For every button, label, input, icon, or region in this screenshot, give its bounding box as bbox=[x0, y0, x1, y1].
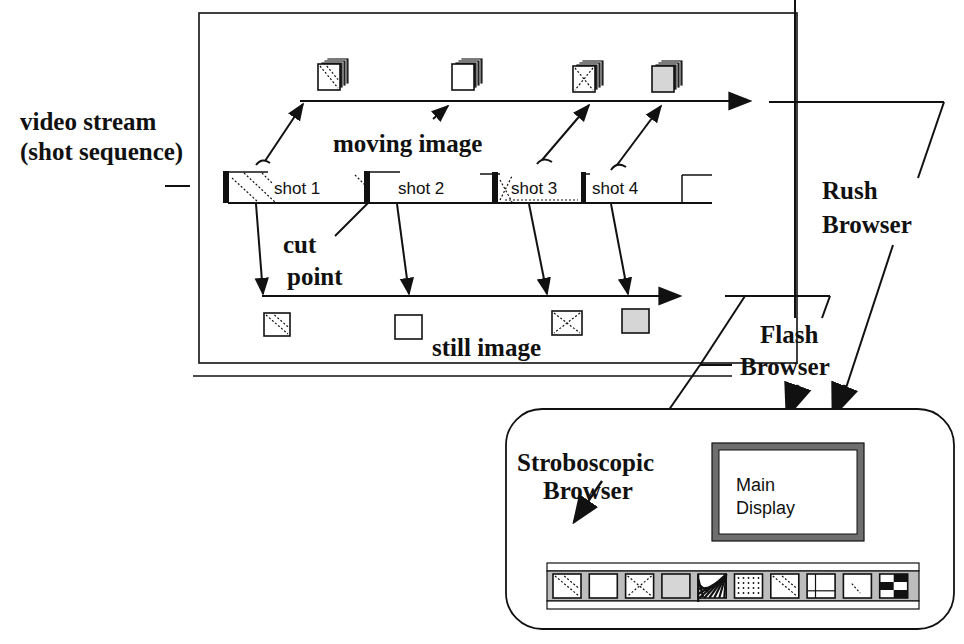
flash-browser-label-1: Flash bbox=[760, 321, 818, 348]
thumbnail-dashes[interactable] bbox=[843, 574, 871, 598]
shot-1-label: shot 1 bbox=[274, 179, 320, 198]
still-image-label: still image bbox=[432, 334, 541, 361]
shot-strip: shot 1 shot 2 shot 3 shot 4 bbox=[165, 171, 712, 203]
rush-browser-label-1: Rush bbox=[822, 177, 878, 204]
thumbnail-diagonal[interactable] bbox=[318, 64, 340, 90]
thumbnail-gray[interactable] bbox=[622, 309, 649, 333]
diagram-canvas: shot 1 shot 2 shot 3 shot 4 bbox=[0, 0, 964, 644]
cut-label: cut bbox=[283, 231, 317, 258]
main-display-label-2: Display bbox=[736, 498, 795, 518]
thumbnail-diagonal[interactable] bbox=[553, 574, 581, 598]
thumbnail-gray[interactable] bbox=[662, 574, 690, 598]
thumbnail-cross[interactable] bbox=[552, 311, 582, 335]
point-label: point bbox=[287, 263, 343, 290]
thumbnail-diagonal[interactable] bbox=[771, 574, 799, 598]
shot-3-label: shot 3 bbox=[511, 179, 557, 198]
cut-mark bbox=[223, 171, 229, 203]
stroboscopic-browser-label-2: Browser bbox=[543, 477, 633, 504]
moving-image-label: moving image bbox=[333, 130, 482, 157]
thumbnail-stripes[interactable] bbox=[698, 574, 726, 602]
shot-2-label: shot 2 bbox=[398, 179, 444, 198]
cut-mark bbox=[492, 172, 498, 202]
thumbnail-panes[interactable] bbox=[807, 574, 835, 598]
cut-mark bbox=[364, 171, 370, 203]
thumbnail-blank[interactable] bbox=[589, 574, 617, 598]
browser-architecture-diagram: shot 1 shot 2 shot 3 shot 4 bbox=[0, 0, 964, 644]
main-display-label-1: Main bbox=[736, 475, 775, 495]
video-stream-label: video stream bbox=[20, 108, 156, 135]
rush-browser-label-2: Browser bbox=[822, 211, 912, 238]
thumbnail-checker[interactable] bbox=[880, 574, 908, 598]
thumbnail-blank[interactable] bbox=[452, 64, 474, 90]
cut-mark bbox=[581, 172, 586, 202]
moving-image-stacks bbox=[318, 58, 683, 92]
thumbnail-gray[interactable] bbox=[652, 66, 674, 92]
thumbnail-blank[interactable] bbox=[395, 315, 422, 339]
thumbnail-cross[interactable] bbox=[626, 574, 654, 598]
shot-sequence-label: (shot sequence) bbox=[20, 138, 183, 166]
flash-browser-label-2: Browser bbox=[740, 353, 830, 380]
stroboscopic-browser-label-1: Stroboscopic bbox=[517, 449, 654, 476]
thumbnail-dots[interactable] bbox=[735, 574, 763, 598]
thumbnail-diagonal[interactable] bbox=[264, 313, 290, 336]
shot-4-label: shot 4 bbox=[592, 179, 638, 198]
thumbnail-cross[interactable] bbox=[573, 66, 595, 92]
